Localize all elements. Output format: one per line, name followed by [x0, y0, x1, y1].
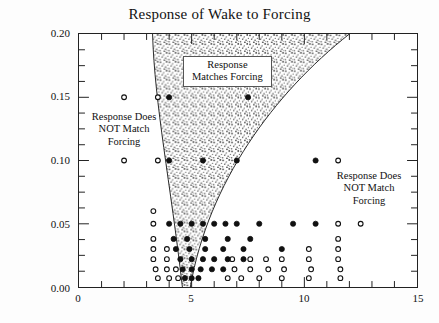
- data-point-open: [153, 267, 158, 272]
- data-point-filled: [248, 236, 253, 241]
- data-point-filled: [171, 236, 176, 241]
- data-point-filled: [200, 221, 205, 226]
- data-point-open: [151, 257, 156, 262]
- data-point-filled: [189, 221, 194, 226]
- y-axis-label: Forcing Amplitude u' / U∞: [0, 0, 1, 160]
- data-point-filled: [212, 221, 217, 226]
- data-point-open: [164, 267, 169, 272]
- annotation-no-match-right: Response Does NOT Match Forcing: [322, 170, 416, 207]
- data-point-open: [122, 95, 127, 100]
- x-tick-label: 0: [58, 292, 98, 304]
- data-point-filled: [234, 221, 239, 226]
- data-point-filled: [203, 236, 208, 241]
- data-point-open: [151, 237, 156, 242]
- data-point-open: [306, 257, 311, 262]
- data-point-filled: [241, 257, 246, 262]
- data-point-open: [336, 237, 341, 242]
- data-point-open: [279, 276, 284, 281]
- data-point-filled: [200, 158, 205, 163]
- data-point-filled: [182, 276, 187, 281]
- data-point-open: [336, 257, 341, 262]
- data-point-open: [309, 267, 314, 272]
- data-point-filled: [225, 236, 230, 241]
- data-point-open: [174, 267, 179, 272]
- data-point-open: [167, 276, 172, 281]
- data-point-filled: [221, 267, 226, 272]
- data-point-open: [264, 257, 269, 262]
- data-point-filled: [178, 257, 183, 262]
- data-point-open: [336, 158, 341, 163]
- data-point-filled: [279, 246, 284, 251]
- data-point-open: [155, 95, 160, 100]
- data-point-open: [282, 267, 287, 272]
- data-point-filled: [313, 221, 318, 226]
- y-tick-label: 0.05: [28, 218, 70, 230]
- data-point-open: [306, 247, 311, 252]
- data-point-filled: [189, 257, 194, 262]
- chart-figure: Response of Wake to Forcing Forcing Ampl…: [0, 0, 439, 323]
- data-point-filled: [313, 158, 318, 163]
- data-point-filled: [189, 276, 194, 281]
- x-tick-label: 10: [284, 292, 324, 304]
- data-point-open: [257, 276, 262, 281]
- chart-title: Response of Wake to Forcing: [0, 6, 439, 23]
- data-point-filled: [180, 267, 185, 272]
- data-point-open: [225, 276, 230, 281]
- x-tick-label: 5: [171, 292, 211, 304]
- data-point-filled: [196, 276, 201, 281]
- data-point-filled: [221, 246, 226, 251]
- data-point-filled: [189, 267, 194, 272]
- data-point-filled: [173, 246, 178, 251]
- data-point-open: [151, 221, 156, 226]
- data-point-open: [176, 276, 181, 281]
- data-point-open: [155, 276, 160, 281]
- data-point-open: [279, 257, 284, 262]
- data-point-open: [151, 247, 156, 252]
- data-point-filled: [185, 236, 190, 241]
- data-point-filled: [209, 267, 214, 272]
- annotation-no-match-left: Response Does NOT Match Forcing: [77, 111, 171, 148]
- data-point-filled: [178, 221, 183, 226]
- data-point-filled: [167, 158, 172, 163]
- data-point-filled: [234, 158, 239, 163]
- data-point-filled: [212, 257, 217, 262]
- data-point-filled: [245, 95, 250, 100]
- y-tick-label: 0.20: [28, 27, 70, 39]
- data-point-open: [248, 267, 253, 272]
- data-point-filled: [290, 221, 295, 226]
- data-point-open: [232, 267, 237, 272]
- data-point-open: [248, 257, 253, 262]
- data-point-open: [164, 257, 169, 262]
- y-tick-label: 0.10: [28, 154, 70, 166]
- data-point-open: [336, 247, 341, 252]
- data-point-open: [155, 158, 160, 163]
- data-point-open: [266, 267, 271, 272]
- data-point-open: [122, 158, 127, 163]
- plot-area: Response Matches Forcing Response Does N…: [78, 33, 418, 288]
- data-point-filled: [203, 246, 208, 251]
- data-point-filled: [257, 221, 262, 226]
- data-point-open: [151, 209, 156, 214]
- x-tick-label: 15: [398, 292, 438, 304]
- annotation-response-matches: Response Matches Forcing: [183, 56, 272, 87]
- data-point-open: [306, 276, 311, 281]
- data-point-open: [358, 221, 363, 226]
- data-point-filled: [187, 246, 192, 251]
- y-tick-label: 0.15: [28, 90, 70, 102]
- data-point-open: [338, 267, 343, 272]
- data-point-filled: [167, 95, 172, 100]
- data-point-filled: [198, 267, 203, 272]
- data-point-filled: [223, 221, 228, 226]
- data-point-filled: [225, 257, 230, 262]
- data-point-open: [239, 276, 244, 281]
- data-point-open: [164, 247, 169, 252]
- data-point-filled: [200, 257, 205, 262]
- data-point-open: [336, 221, 341, 226]
- data-point-filled: [167, 221, 172, 226]
- data-point-open: [338, 276, 343, 281]
- data-point-filled: [241, 246, 246, 251]
